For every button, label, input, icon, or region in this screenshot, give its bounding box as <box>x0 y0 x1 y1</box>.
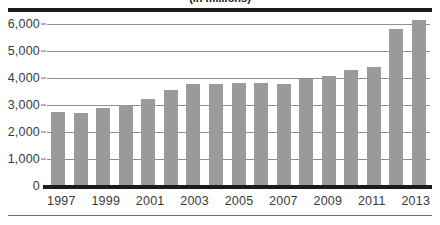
bar-cell <box>115 24 138 186</box>
y-tick-label-4000: 4,000 <box>8 71 40 85</box>
bar-cell <box>182 24 205 186</box>
bar-cell <box>160 24 183 186</box>
bar-1997 <box>51 112 65 186</box>
bar-2010 <box>344 70 358 186</box>
x-tick-label-2005: 2005 <box>225 191 254 211</box>
chart-title: (in millions) <box>0 0 440 4</box>
x-tick-label-2007: 2007 <box>269 191 298 211</box>
bottom-divider-rule <box>8 215 432 216</box>
bar-2001 <box>141 99 155 186</box>
x-tick-label-2010 <box>342 191 358 211</box>
x-tick-label-2004 <box>209 191 225 211</box>
y-tick-label-1000: 1,000 <box>8 152 40 166</box>
x-tick-label-2006 <box>253 191 269 211</box>
bar-series <box>47 24 430 186</box>
bar-cell <box>137 24 160 186</box>
y-tick-label-5000: 5,000 <box>8 44 40 58</box>
bar-2002 <box>164 90 178 186</box>
bar-2012 <box>389 29 403 186</box>
x-tick-label-2001: 2001 <box>136 191 165 211</box>
y-tick-label-3000: 3,000 <box>8 98 40 112</box>
y-tick-label-2000: 2,000 <box>8 125 40 139</box>
y-tick-mark-5000 <box>41 51 46 52</box>
bar-2000 <box>119 105 133 186</box>
bar-1998 <box>74 113 88 186</box>
x-tick-label-2003: 2003 <box>180 191 209 211</box>
bar-cell <box>385 24 408 186</box>
bar-cell <box>295 24 318 186</box>
x-tick-label-2002 <box>164 191 180 211</box>
bar-1999 <box>96 108 110 186</box>
x-axis-baseline <box>43 185 432 189</box>
x-tick-label-2008 <box>298 191 314 211</box>
bar-2004 <box>209 84 223 186</box>
bar-2009 <box>322 76 336 186</box>
y-tick-mark-1000 <box>41 159 46 160</box>
x-tick-label-2000 <box>120 191 136 211</box>
chart-title-strip: (in millions) <box>0 0 440 7</box>
bar-2011 <box>367 67 381 186</box>
bar-2008 <box>299 79 313 186</box>
bar-cell <box>227 24 250 186</box>
bar-cell <box>317 24 340 186</box>
x-tick-label-2013: 2013 <box>401 191 430 211</box>
bar-cell <box>205 24 228 186</box>
bar-cell <box>70 24 93 186</box>
y-axis: 6,000 5,000 4,000 3,000 2,000 1,000 0 <box>0 24 40 186</box>
y-tick-mark-4000 <box>41 78 46 79</box>
x-tick-label-2012 <box>386 191 402 211</box>
bar-cell <box>362 24 385 186</box>
y-tick-mark-2000 <box>41 132 46 133</box>
x-tick-label-2011: 2011 <box>358 191 386 211</box>
x-tick-label-1997: 1997 <box>47 191 76 211</box>
bar-cell <box>47 24 70 186</box>
bar-cell <box>250 24 273 186</box>
bar-2005 <box>232 83 246 186</box>
bar-2007 <box>277 84 291 186</box>
bar-cell <box>408 24 431 186</box>
bar-2013 <box>412 20 426 186</box>
y-tick-mark-3000 <box>41 105 46 106</box>
x-tick-label-1998 <box>76 191 92 211</box>
bar-2003 <box>186 84 200 186</box>
x-tick-label-2009: 2009 <box>314 191 343 211</box>
top-divider-rule <box>8 8 432 12</box>
y-tick-label-6000: 6,000 <box>8 17 40 31</box>
bar-cell <box>340 24 363 186</box>
y-tick-mark-6000 <box>41 24 46 25</box>
x-tick-label-1999: 1999 <box>91 191 120 211</box>
bar-2006 <box>254 83 268 186</box>
bar-chart-figure: (in millions) 6,000 5,000 4,000 3,000 2,… <box>0 0 440 225</box>
bar-cell <box>272 24 295 186</box>
y-tick-label-0: 0 <box>33 179 40 193</box>
x-axis: 199719992001200320052007200920112013 <box>47 191 430 211</box>
bar-cell <box>92 24 115 186</box>
